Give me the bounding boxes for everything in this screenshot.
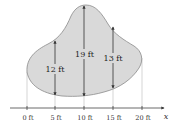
measure-label-10ft: 19 ft <box>75 50 95 59</box>
measure-label-15ft: 13 ft <box>104 54 124 63</box>
tick-label-10: 10 ft <box>77 114 93 122</box>
tick-label-15: 15 ft <box>106 114 122 122</box>
tick-label-5: 5 ft <box>50 114 62 122</box>
tick-label-0: 0 ft <box>22 114 34 122</box>
x-axis-label: x <box>164 112 169 121</box>
region-diagram: 12 ft 19 ft 13 ft 0 ft 5 ft 10 ft 15 ft … <box>0 0 172 131</box>
tick-label-20: 20 ft <box>135 114 151 122</box>
measure-label-5ft: 12 ft <box>46 65 66 74</box>
